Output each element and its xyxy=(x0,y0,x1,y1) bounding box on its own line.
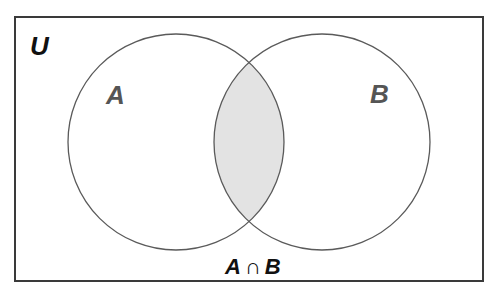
intersection-label: A∩B xyxy=(224,254,281,279)
set-b-label: B xyxy=(370,79,389,109)
venn-diagram: U A B A∩B xyxy=(0,0,494,296)
universe-label: U xyxy=(30,31,50,61)
set-a-label: A xyxy=(105,80,125,110)
